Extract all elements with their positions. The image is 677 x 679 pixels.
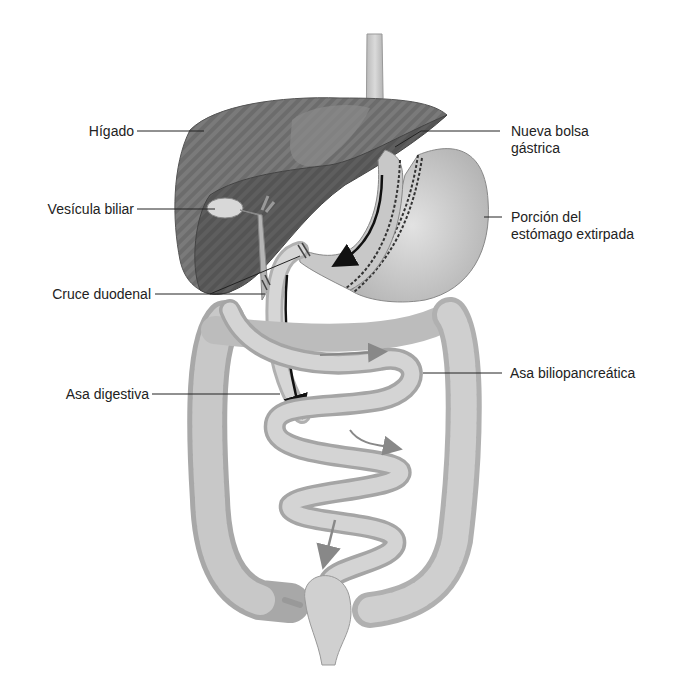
rectum	[305, 576, 351, 665]
label-asa-digestiva: Asa digestiva	[30, 386, 149, 403]
label-porcion-line2: estómago extirpada	[511, 226, 634, 243]
label-vesicula-biliar: Vesícula biliar	[15, 201, 134, 218]
digestive-system-illustration	[0, 0, 677, 679]
label-higado: Hígado	[60, 123, 134, 140]
label-cruce-duodenal: Cruce duodenal	[20, 286, 151, 303]
label-nueva-bolsa-gastrica: Nueva bolsa gástrica	[511, 123, 589, 157]
label-nueva-bolsa-line1: Nueva bolsa	[511, 123, 589, 140]
label-porcion-line1: Porción del	[511, 209, 634, 226]
label-porcion-estomago: Porción del estómago extirpada	[511, 209, 634, 243]
anatomical-diagram: Hígado Vesícula biliar Cruce duodenal As…	[0, 0, 677, 679]
label-asa-biliopancreatica: Asa biliopancreática	[510, 365, 635, 382]
label-nueva-bolsa-line2: gástrica	[511, 140, 589, 157]
